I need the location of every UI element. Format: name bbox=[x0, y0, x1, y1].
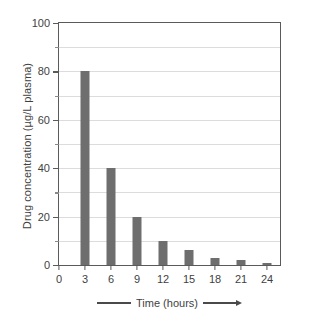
plot-area: 020406080100 03691215182124 bbox=[58, 22, 281, 266]
bar bbox=[81, 71, 90, 265]
x-axis-title-label: Time (hours) bbox=[136, 297, 198, 309]
gridline bbox=[59, 192, 280, 193]
bar bbox=[159, 241, 168, 265]
y-axis-tick-label: 100 bbox=[32, 17, 50, 29]
y-axis-tick-label: 40 bbox=[38, 162, 50, 174]
y-axis-tick-label: 60 bbox=[38, 114, 50, 126]
x-axis-tick bbox=[266, 265, 267, 270]
x-axis-tick bbox=[136, 265, 137, 270]
bar bbox=[237, 260, 246, 265]
gridline bbox=[59, 168, 280, 169]
chart-figure: Drug concentration (µg/L plasma) 0204060… bbox=[0, 0, 309, 320]
x-axis-tick bbox=[84, 265, 85, 270]
y-axis-title: Drug concentration (µg/L plasma) bbox=[16, 16, 38, 276]
y-axis-tick-label: 80 bbox=[38, 65, 50, 77]
bar bbox=[107, 168, 116, 265]
x-axis-tick-label: 9 bbox=[134, 273, 140, 285]
x-axis-tick-label: 24 bbox=[261, 273, 273, 285]
x-axis-tick-label: 15 bbox=[183, 273, 195, 285]
x-axis-tick bbox=[240, 265, 241, 270]
bar bbox=[211, 258, 220, 265]
gridline bbox=[59, 47, 280, 48]
x-axis-title-rule-right bbox=[203, 302, 237, 303]
x-axis-tick-label: 21 bbox=[235, 273, 247, 285]
x-axis-tick bbox=[110, 265, 111, 270]
gridline bbox=[59, 96, 280, 97]
x-axis-tick bbox=[188, 265, 189, 270]
arrow-head-icon bbox=[236, 300, 242, 306]
x-axis-tick-label: 12 bbox=[157, 273, 169, 285]
x-axis-tick-label: 18 bbox=[209, 273, 221, 285]
y-axis-minor-tick bbox=[55, 192, 59, 193]
x-axis-tick-label: 6 bbox=[108, 273, 114, 285]
bar bbox=[263, 263, 272, 265]
y-axis-tick-label: 20 bbox=[38, 211, 50, 223]
y-axis-minor-tick bbox=[55, 96, 59, 97]
x-axis-tick-label: 3 bbox=[82, 273, 88, 285]
arrow-right-icon bbox=[203, 300, 242, 306]
bar bbox=[133, 217, 142, 265]
gridline bbox=[59, 144, 280, 145]
y-axis-tick bbox=[53, 120, 59, 121]
x-axis-tick-label: 0 bbox=[56, 273, 62, 285]
x-axis-tick bbox=[162, 265, 163, 270]
y-axis-minor-tick bbox=[55, 144, 59, 145]
gridline bbox=[59, 120, 280, 121]
y-axis-tick bbox=[53, 168, 59, 169]
gridline bbox=[59, 217, 280, 218]
bar bbox=[185, 250, 194, 265]
y-axis-tick bbox=[53, 23, 59, 24]
x-axis-title: Time (hours) bbox=[58, 294, 281, 312]
x-axis-tick bbox=[58, 265, 59, 270]
gridline bbox=[59, 241, 280, 242]
y-axis-tick bbox=[53, 71, 59, 72]
x-axis-title-rule-left bbox=[97, 302, 131, 303]
y-axis-tick bbox=[53, 217, 59, 218]
y-axis-tick-label: 0 bbox=[44, 259, 50, 271]
x-axis-tick bbox=[214, 265, 215, 270]
y-axis-minor-tick bbox=[55, 47, 59, 48]
gridline bbox=[59, 71, 280, 72]
y-axis-minor-tick bbox=[55, 241, 59, 242]
